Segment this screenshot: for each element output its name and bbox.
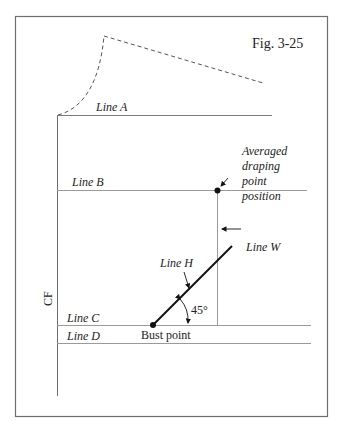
figure-title: Fig. 3-25 xyxy=(252,36,303,51)
angle-label: 45° xyxy=(191,303,208,317)
draping-label-4: position xyxy=(241,189,281,203)
figure-frame xyxy=(16,17,328,417)
draping-point-dot xyxy=(215,188,221,194)
line-w-label: Line W xyxy=(245,240,281,254)
line-h-label: Line H xyxy=(159,256,194,270)
cf-label: CF xyxy=(41,291,55,306)
pattern-diagram: Fig. 3-25 CF Line A Line B Averaged drap… xyxy=(0,0,338,422)
bust-point-label: Bust point xyxy=(141,328,191,342)
line-c-label: Line C xyxy=(66,311,100,325)
draping-label-3: point xyxy=(241,174,267,188)
angle-arc xyxy=(180,299,188,323)
line-b-label: Line B xyxy=(71,175,104,189)
draping-label-1: Averaged xyxy=(241,144,288,158)
line-d-label: Line D xyxy=(66,329,100,343)
draping-label-2: draping xyxy=(242,159,280,173)
shoulder-dashed-line xyxy=(104,36,263,83)
draping-pointer-arrow xyxy=(221,178,228,186)
line-h-pointer-arrow xyxy=(184,272,189,288)
line-a-label: Line A xyxy=(95,100,128,114)
